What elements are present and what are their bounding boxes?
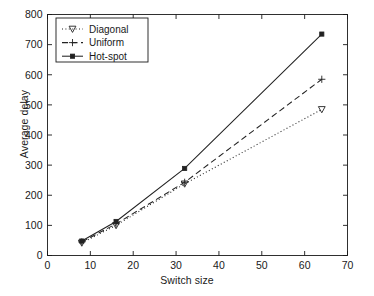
x-tick-label: 40 [213,259,225,271]
x-tick-label: 20 [127,259,139,271]
x-axis-label: Switch size [0,274,374,286]
chart-figure: 0102030405060700100200300400500600700800… [0,0,374,296]
data-point-hot-spot [80,239,84,243]
data-point-hot-spot [320,32,324,36]
x-tick-label: 10 [85,259,97,271]
x-tick-label: 60 [299,259,311,271]
x-tick-label: 30 [170,259,182,271]
series-line-uniform [82,79,322,242]
y-tick-label: 200 [25,189,43,201]
data-point-hot-spot [183,166,187,170]
y-tick-label: 100 [25,219,43,231]
y-tick-label: 800 [25,8,43,20]
legend-marker-hot-spot [70,54,74,58]
x-tick-label: 0 [45,259,51,271]
data-point-hot-spot [114,219,118,223]
legend-label: Hot-spot [89,51,127,62]
data-point-diagonal [318,107,325,113]
line-chart-plot: 0102030405060700100200300400500600700800… [0,0,374,296]
series-line-hot-spot [82,34,322,241]
x-tick-label: 50 [256,259,268,271]
x-tick-label: 70 [342,259,354,271]
legend-label: Diagonal [89,24,128,35]
y-tick-label: 700 [25,38,43,50]
y-tick-label: 0 [37,249,43,261]
legend-label: Uniform [89,37,124,48]
y-axis-label: Average delay [18,78,30,170]
